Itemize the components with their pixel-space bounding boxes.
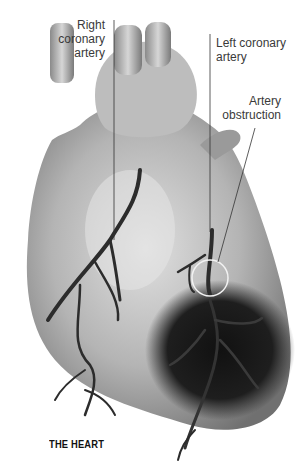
label-right-coronary-artery: Right coronary artery [58,18,105,60]
label-line: Right [58,18,105,32]
label-line: Artery [222,94,281,108]
label-line: artery [58,46,105,60]
label-line: Left coronary [216,36,286,50]
label-artery-obstruction: Artery obstruction [222,94,281,122]
label-left-coronary-artery: Left coronary artery [216,36,286,64]
heart-body [27,22,295,430]
label-line: coronary [58,32,105,46]
heart-illustration [0,0,305,473]
label-line: obstruction [222,108,281,122]
diagram-title: THE HEART [49,438,104,450]
heart-diagram: Right coronary artery Left coronary arte… [0,0,305,473]
label-line: artery [216,50,286,64]
